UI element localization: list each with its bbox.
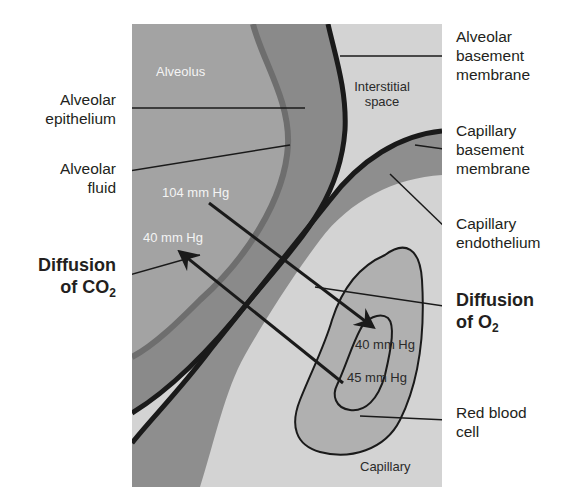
label-diffusion-co2: Diffusion of CO2 <box>38 254 116 298</box>
label-alveolar-epithelium: Alveolar epithelium <box>45 90 116 128</box>
interstitial-space-label: Interstitial space <box>342 79 422 109</box>
label-diffusion-o2: Diffusion of O2 <box>456 289 534 333</box>
blood-po2-value: 40 mm Hg <box>355 337 415 352</box>
label-capillary-basement-membrane: Capillary basement membrane <box>456 121 530 178</box>
label-red-blood-cell: Red blood cell <box>456 403 527 441</box>
alveolus-label: Alveolus <box>156 64 205 79</box>
blood-pco2-value: 45 mm Hg <box>347 370 407 385</box>
label-alveolar-basement-membrane: Alveolar basement membrane <box>456 27 530 84</box>
label-alveolar-fluid: Alveolar fluid <box>60 159 116 197</box>
alveolar-po2-value: 104 mm Hg <box>162 185 229 200</box>
capillary-label: Capillary <box>360 459 411 474</box>
alveolar-pco2-value: 40 mm Hg <box>143 230 203 245</box>
label-capillary-endothelium: Capillary endothelium <box>456 214 540 252</box>
